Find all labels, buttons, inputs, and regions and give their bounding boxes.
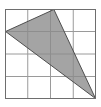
- geometry-figure: [0, 0, 101, 107]
- figure-container: [0, 0, 101, 107]
